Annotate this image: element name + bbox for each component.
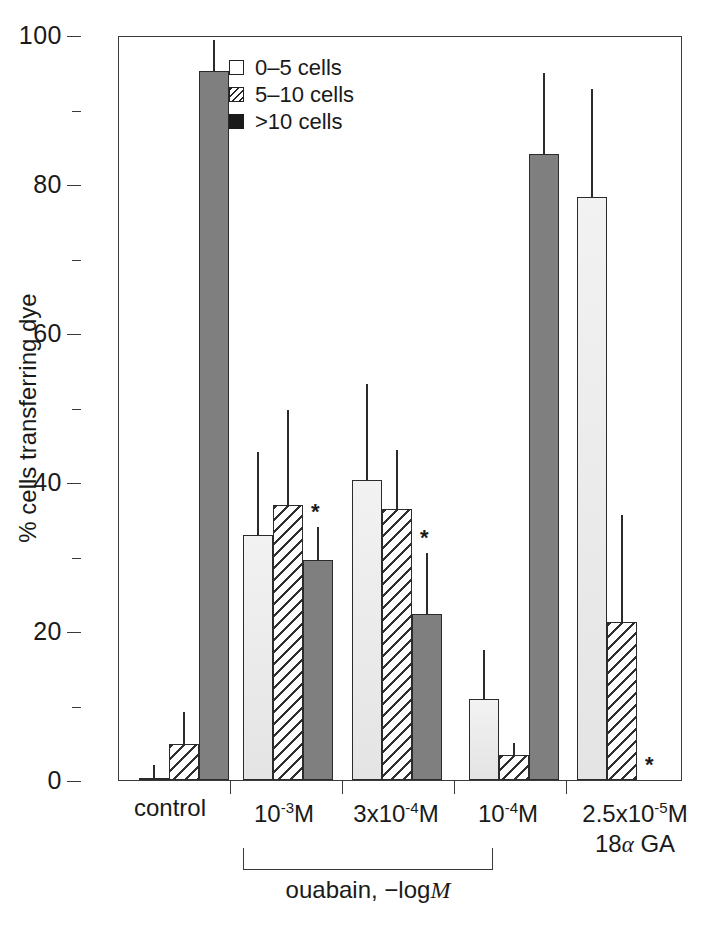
x-label-18aGA: 2.5x10-5M 18α GA <box>560 793 710 860</box>
y-axis: 100 80 60 40 20 0 % cells transferring d… <box>0 0 118 942</box>
y-tick-minor-50 <box>72 409 81 410</box>
significance-star-3e-4M: * <box>420 529 429 547</box>
errorbar-control-0-5-cells <box>153 765 155 778</box>
bar-18aGA-5-10-cells[interactable] <box>607 622 637 780</box>
x-label-1e-3M-exp: -3 <box>281 799 294 816</box>
x-label-1e-4M: 10-4M <box>450 793 566 829</box>
y-tick-100 <box>67 36 81 37</box>
x-label-18aGA-exp: -5 <box>654 799 667 816</box>
x-label-3e-4M-exp: -4 <box>405 799 418 816</box>
x-label-18aGA-base: 2.5x10 <box>582 800 654 827</box>
plot-area: 0–5 cells 5–10 cells >10 cells <box>118 36 682 781</box>
x-label-3e-4M-base: 3x10 <box>353 800 405 827</box>
x-label-18aGA-num: 18 <box>595 830 622 857</box>
bracket-label-text: ouabain, −log <box>286 876 431 903</box>
bracket-label: ouabain, −logM <box>243 876 493 904</box>
bar-group-18aGA: * <box>567 35 683 780</box>
errorbar-1e-4M-gt10-cells <box>543 73 545 154</box>
bar-group-1e-3M: * <box>231 35 343 780</box>
y-tick-20 <box>67 632 81 633</box>
y-tick-40 <box>67 483 81 484</box>
y-tick-label-0: 0 <box>48 768 62 793</box>
bar-1e-3M-0-5-cells[interactable] <box>243 535 273 780</box>
errorbar-3e-4M-gt10-cells <box>426 553 428 614</box>
errorbar-1e-3M-0-5-cells <box>257 452 259 535</box>
bar-3e-4M-0-5-cells[interactable] <box>352 480 382 780</box>
x-label-18aGA-unit: M <box>668 800 688 827</box>
bar-group-1e-4M <box>455 35 567 780</box>
bar-control-0-5-cells[interactable] <box>139 778 169 780</box>
bar-group-3e-4M: * <box>343 35 455 780</box>
x-label-control-text: control <box>134 794 206 821</box>
y-tick-label-100: 100 <box>19 23 62 48</box>
errorbar-1e-3M-5-10-cells <box>287 410 289 505</box>
bar-1e-3M-gt10-cells[interactable] <box>303 560 333 780</box>
bar-control-5-10-cells[interactable] <box>169 744 199 780</box>
errorbar-1e-4M-0-5-cells <box>483 650 485 699</box>
x-label-1e-4M-unit: M <box>518 800 538 827</box>
x-label-1e-3M: 10-3M <box>226 793 342 829</box>
bar-3e-4M-gt10-cells[interactable] <box>412 614 442 780</box>
errorbar-3e-4M-0-5-cells <box>366 384 368 480</box>
y-axis-title: % cells transferring dye <box>14 138 42 698</box>
bar-group-control <box>119 35 231 780</box>
group-bracket <box>243 848 493 870</box>
x-label-18aGA-ga: GA <box>640 830 675 857</box>
bar-1e-4M-gt10-cells[interactable] <box>529 154 559 780</box>
x-label-control: control <box>112 793 228 823</box>
bar-1e-4M-5-10-cells[interactable] <box>499 755 529 780</box>
y-tick-80 <box>67 185 81 186</box>
y-tick-minor-70 <box>72 260 81 261</box>
bar-18aGA-0-5-cells[interactable] <box>577 197 607 780</box>
y-tick-minor-10 <box>72 707 81 708</box>
figure-bar-chart: 100 80 60 40 20 0 % cells transferring d… <box>0 0 719 942</box>
bracket-label-italic-M: M <box>430 877 450 903</box>
bar-control-gt10-cells[interactable] <box>199 71 229 780</box>
x-label-1e-3M-base: 10 <box>254 800 281 827</box>
x-label-3e-4M-unit: M <box>419 800 439 827</box>
errorbar-18aGA-0-5-cells <box>591 89 593 197</box>
errorbar-18aGA-5-10-cells <box>621 515 623 622</box>
x-label-1e-4M-base: 10 <box>478 800 505 827</box>
errorbar-control-gt10-cells <box>213 40 215 71</box>
significance-star-18aGA: * <box>645 756 654 774</box>
x-label-3e-4M: 3x10-4M <box>336 793 456 829</box>
bar-1e-3M-5-10-cells[interactable] <box>273 505 303 780</box>
y-tick-0 <box>67 781 81 782</box>
errorbar-3e-4M-5-10-cells <box>396 450 398 509</box>
errorbar-1e-3M-gt10-cells <box>317 527 319 560</box>
bar-1e-4M-0-5-cells[interactable] <box>469 699 499 780</box>
x-label-1e-4M-exp: -4 <box>505 799 518 816</box>
y-tick-minor-30 <box>72 558 81 559</box>
alpha-symbol-icon: α <box>622 832 634 857</box>
significance-star-1e-3M: * <box>311 503 320 521</box>
errorbar-control-5-10-cells <box>183 712 185 744</box>
x-label-1e-3M-unit: M <box>294 800 314 827</box>
errorbar-1e-4M-5-10-cells <box>513 743 515 755</box>
y-tick-minor-90 <box>72 111 81 112</box>
y-tick-60 <box>67 334 81 335</box>
bar-3e-4M-5-10-cells[interactable] <box>382 509 412 780</box>
